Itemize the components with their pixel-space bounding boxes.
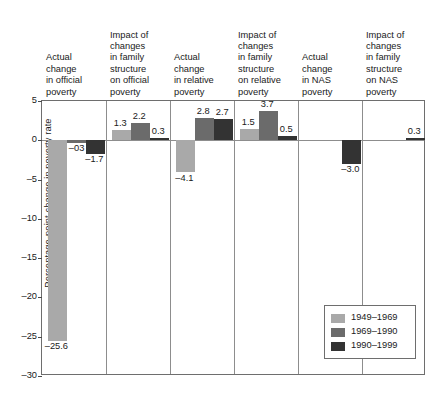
bar-4-2: [259, 111, 278, 140]
bar-value-label: 2.7: [216, 108, 229, 117]
bar-3-2: [195, 118, 214, 140]
poverty-change-bar-chart: Percentage-point change in poverty rate …: [0, 0, 442, 396]
bar-2-1: [112, 130, 131, 140]
y-tick-label: –10: [15, 214, 37, 223]
legend-item-1: 1949–1969: [331, 311, 409, 325]
y-tick-mark: [38, 376, 42, 377]
legend-swatch: [331, 314, 345, 323]
column-header-6: Impact of changes in family structure on…: [361, 8, 425, 100]
bar-1-3: [86, 140, 105, 153]
bar-2-3: [150, 138, 169, 140]
column-header-label: Actual change in official poverty: [46, 52, 82, 98]
legend-swatch: [331, 328, 345, 337]
panel-divider-3: [234, 101, 235, 374]
y-tick-label: 5: [15, 96, 37, 105]
legend: 1949–19691969–19901990–1999: [324, 305, 416, 359]
bar-6-3: [406, 138, 425, 140]
bar-value-label: 1.5: [242, 118, 255, 127]
y-tick-mark: [38, 297, 42, 298]
panel-divider-4: [298, 101, 299, 374]
bar-1-1: [48, 140, 67, 341]
bar-value-label: 2.2: [133, 112, 146, 121]
column-header-5: Actual change in NAS poverty: [297, 8, 361, 100]
y-tick-label: –30: [15, 371, 37, 380]
legend-label: 1969–1990: [351, 327, 398, 336]
y-tick-mark: [38, 180, 42, 181]
legend-swatch: [331, 342, 345, 351]
bar-value-label: 3.7: [261, 100, 274, 109]
column-header-label: Impact of changes in family structure on…: [366, 30, 404, 98]
column-header-3: Actual change in relative poverty: [169, 8, 233, 100]
y-tick-label: –5: [15, 175, 37, 184]
bar-5-3: [342, 140, 361, 164]
column-header-label: Actual change in relative poverty: [174, 52, 214, 98]
y-tick-mark: [38, 219, 42, 220]
bar-value-label: 0.3: [408, 127, 421, 136]
panel-divider-2: [170, 101, 171, 374]
bar-value-label: 2.8: [197, 107, 210, 116]
y-tick-mark: [38, 101, 42, 102]
bar-value-label: –25.6: [45, 342, 68, 351]
bar-3-3: [214, 119, 233, 140]
bar-value-label: –3.0: [341, 165, 359, 174]
y-tick-label: –20: [15, 292, 37, 301]
column-header-2: Impact of changes in family structure on…: [105, 8, 169, 100]
y-tick-label: 0: [15, 135, 37, 144]
bar-value-label: –1.7: [85, 155, 103, 164]
column-header-4: Impact of changes in family structure on…: [233, 8, 297, 100]
y-tick-mark: [38, 140, 42, 141]
bar-2-2: [131, 123, 150, 140]
bar-value-label: 0.5: [280, 125, 293, 134]
column-header-label: Impact of changes in family structure on…: [110, 30, 149, 98]
bar-4-1: [240, 129, 259, 141]
legend-label: 1949–1969: [351, 313, 398, 322]
legend-item-2: 1969–1990: [331, 325, 409, 339]
y-tick-label: –15: [15, 253, 37, 262]
column-header-1: Actual change in official poverty: [41, 8, 105, 100]
y-tick-mark: [38, 337, 42, 338]
column-header-row: Actual change in official povertyImpact …: [41, 8, 425, 100]
panel-divider-1: [106, 101, 107, 374]
column-header-label: Impact of changes in family structure on…: [238, 30, 281, 98]
y-tick-mark: [38, 258, 42, 259]
bar-value-label: 0.3: [152, 127, 165, 136]
bar-4-3: [278, 136, 297, 140]
column-header-label: Actual change in NAS poverty: [302, 52, 333, 98]
bar-value-label: 1.3: [114, 119, 127, 128]
bar-3-1: [176, 140, 195, 172]
legend-item-3: 1990–1999: [331, 339, 409, 353]
bar-value-label: –03: [69, 144, 85, 153]
y-tick-label: –25: [15, 332, 37, 341]
legend-label: 1990–1999: [351, 341, 398, 350]
bar-value-label: –4.1: [175, 174, 193, 183]
